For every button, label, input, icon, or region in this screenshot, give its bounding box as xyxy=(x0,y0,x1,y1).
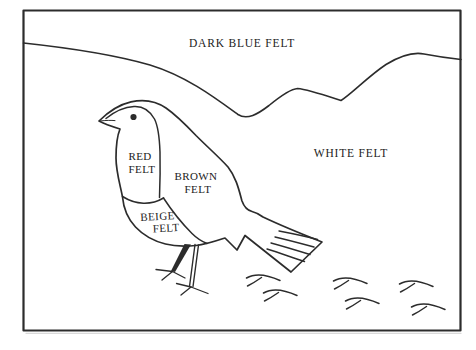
label-red-felt-line2: FELT xyxy=(129,163,156,175)
label-dark-blue-felt: DARK BLUE FELT xyxy=(189,37,295,49)
label-brown-felt-line2: FELT xyxy=(185,183,212,195)
beak-mouth-line xyxy=(100,120,115,121)
label-red-felt: RED FELT xyxy=(128,150,155,175)
felt-pattern-diagram: DARK BLUE FELT WHITE FELT RED FELT BROWN… xyxy=(0,0,476,350)
label-white-felt: WHITE FELT xyxy=(314,147,388,159)
label-brown-felt-line1: BROWN xyxy=(175,170,218,182)
label-red-felt-line1: RED xyxy=(128,150,151,162)
label-beige-felt-line2: FELT xyxy=(152,221,179,234)
paper-background xyxy=(0,0,476,350)
robin-eye xyxy=(130,114,136,120)
pattern-drawing: DARK BLUE FELT WHITE FELT RED FELT BROWN… xyxy=(0,0,476,350)
